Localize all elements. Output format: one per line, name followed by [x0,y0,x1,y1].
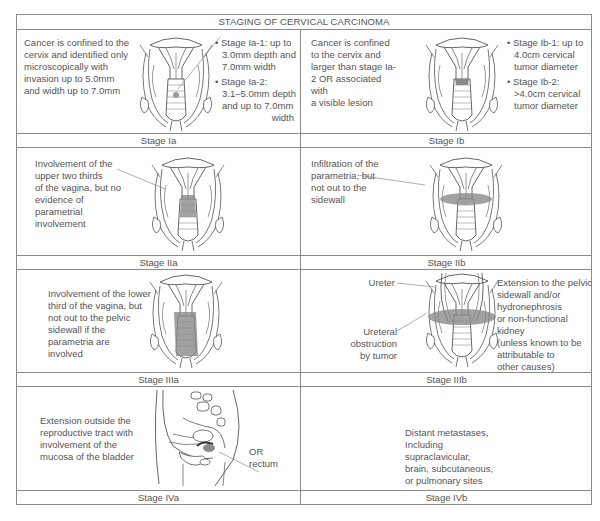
stage-ia-illustration [131,35,221,135]
stage-iiib-description: Extension to the pelvicsidewall and/orhy… [497,277,597,373]
stage-ia-substages: • Stage Ia-1: up to 3.0mm depth and 7.0m… [215,37,300,124]
stage-iia-leader-line [117,167,167,197]
stage-ivb-label: Stage IVb [301,491,592,505]
stage-iiia-label: Stage IIIa [17,373,300,387]
stage-iva-label: Stage IVa [17,491,300,505]
staging-table: STAGING OF CERVICAL CARCINOMA Cancer is … [16,14,592,505]
stage-iia-label: Stage IIa [17,256,300,270]
stage-iiia-illustration [141,272,231,372]
stage-ia-label: Stage Ia [17,134,300,148]
table-title: STAGING OF CERVICAL CARCINOMA [17,15,591,30]
stage-ib-label: Stage Ib [301,134,592,148]
stage-iiib-leader-lines [397,277,437,347]
stage-iib-label: Stage IIb [301,256,592,270]
stage-iib-leader-line [357,173,427,193]
stage-ia-description: Cancer is confined to thecervix and iden… [24,37,134,97]
stage-ivb-description: Distant metastases,Includingsupraclavicu… [405,427,525,487]
ureteral-obstruction-callout: Ureteralobstructionby tumor [347,326,397,362]
stage-ib-illustration [417,35,507,135]
stage-iva-description: Extension outside thereproductive tract … [40,415,140,463]
stage-iiib-label: Stage IIIb [301,373,592,387]
stage-iib-illustration [421,155,511,255]
stage-ib-description: Cancer is confinedto the cervix andlarge… [311,37,401,109]
stage-ib-substages: • Stage Ib-1: up to 4.0cm cervical tumor… [507,37,593,112]
stage-iva-callout: ORrectum [249,446,289,470]
ureter-callout: Ureter [355,277,395,289]
